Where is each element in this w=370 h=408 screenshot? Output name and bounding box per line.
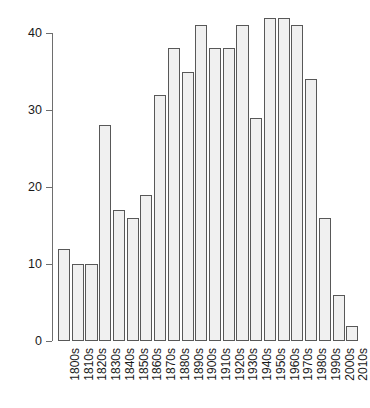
- x-tick-label-1920s: 1920s: [234, 348, 246, 381]
- bar-1880s: [168, 48, 180, 341]
- x-tick-label-1960s: 1960s: [289, 348, 301, 381]
- bar-1890s: [182, 72, 194, 342]
- bar-1950s: [264, 18, 276, 341]
- bar-1930s: [236, 25, 248, 341]
- x-tick-label-1830s: 1830s: [110, 348, 122, 381]
- y-tick-20: [46, 187, 52, 188]
- x-tick-label-1980s: 1980s: [316, 348, 328, 381]
- bar-1870s: [154, 95, 166, 341]
- y-axis-label: 20: [2, 181, 42, 194]
- bar-1970s: [291, 25, 303, 341]
- x-tick-label-1940s: 1940s: [261, 348, 273, 381]
- bar-1840s: [113, 210, 125, 341]
- bar-1820s: [85, 264, 97, 341]
- x-tick-label-1990s: 1990s: [330, 348, 342, 381]
- bar-chart: 010203040 1800s1810s1820s1830s1840s1850s…: [0, 0, 370, 408]
- bar-1960s: [278, 18, 290, 341]
- x-tick-label-1860s: 1860s: [151, 348, 163, 381]
- y-tick-label-wrap: 40: [0, 27, 42, 39]
- x-tick-label-1820s: 1820s: [96, 348, 108, 381]
- bar-1810s: [72, 264, 84, 341]
- y-tick-0: [46, 341, 52, 342]
- bar-2000s: [333, 295, 345, 341]
- x-tick-label-2010s: 2010s: [357, 348, 369, 381]
- y-axis-label: 40: [2, 27, 42, 40]
- x-tick-label-1930s: 1930s: [247, 348, 259, 381]
- x-tick-label-1850s: 1850s: [138, 348, 150, 381]
- bar-1900s: [195, 25, 207, 341]
- x-tick-label-2000s: 2000s: [344, 348, 356, 381]
- y-axis-label: 0: [2, 335, 42, 348]
- y-axis-label: 10: [2, 258, 42, 271]
- x-tick-label-1880s: 1880s: [179, 348, 191, 381]
- bar-1910s: [209, 48, 221, 341]
- x-tick-label-1810s: 1810s: [83, 348, 95, 381]
- bar-1830s: [99, 125, 111, 341]
- bar-1920s: [223, 48, 235, 341]
- bar-1990s: [319, 218, 331, 341]
- y-axis-line: [52, 33, 53, 341]
- bar-1940s: [250, 118, 262, 341]
- x-tick-label-1910s: 1910s: [220, 348, 232, 381]
- y-tick-label-wrap: 30: [0, 104, 42, 116]
- y-tick-30: [46, 110, 52, 111]
- x-tick-label-1900s: 1900s: [206, 348, 218, 381]
- y-tick-label-wrap: 10: [0, 258, 42, 270]
- bar-1980s: [305, 79, 317, 341]
- x-tick-label-1870s: 1870s: [165, 348, 177, 381]
- x-tick-label-1840s: 1840s: [124, 348, 136, 381]
- x-tick-label-1950s: 1950s: [275, 348, 287, 381]
- y-tick-label-wrap: 0: [0, 335, 42, 347]
- x-tick-label-1800s: 1800s: [69, 348, 81, 381]
- y-tick-label-wrap: 20: [0, 181, 42, 193]
- bar-1850s: [127, 218, 139, 341]
- bar-1800s: [58, 249, 70, 341]
- bar-1860s: [140, 195, 152, 341]
- y-tick-10: [46, 264, 52, 265]
- bar-2010s: [346, 326, 358, 341]
- y-axis-label: 30: [2, 104, 42, 117]
- plot-area: 010203040 1800s1810s1820s1830s1840s1850s…: [0, 0, 370, 408]
- x-tick-label-1890s: 1890s: [193, 348, 205, 381]
- y-tick-40: [46, 33, 52, 34]
- x-tick-label-1970s: 1970s: [302, 348, 314, 381]
